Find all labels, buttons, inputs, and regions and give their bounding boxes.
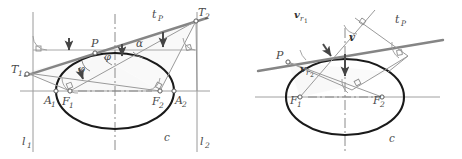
label-a1-sub: 1 xyxy=(51,100,56,109)
right-diagram: P t P F 1 F 2 c v r 1 v r 2 v xyxy=(255,9,443,152)
label-a2-sub: 2 xyxy=(181,100,187,109)
ellipse-figures-svg: P t P T 2 T 1 A 1 F 1 F 2 A 2 l 1 l 2 c … xyxy=(0,0,462,159)
left-shaded-regions xyxy=(27,21,196,91)
arrow-v-r1 xyxy=(323,44,331,56)
point-f1-marker xyxy=(68,89,72,93)
point-t2-marker xyxy=(194,19,198,23)
point-p-marker xyxy=(93,51,97,55)
label-l2: l xyxy=(200,135,204,148)
label-tangent-tp-right: t xyxy=(395,13,400,26)
label-f2-sub-right: 2 xyxy=(379,100,385,109)
label-vector-vr1-sub2: 1 xyxy=(304,17,308,24)
point-f1-marker-right xyxy=(298,95,302,99)
point-a2-marker xyxy=(172,89,176,93)
label-vector-v: v xyxy=(349,31,356,43)
label-f1-sub-right: 1 xyxy=(297,100,302,109)
label-vector-vr2-sub2: 2 xyxy=(310,71,314,78)
label-angle-phi-left: φ xyxy=(78,63,85,74)
tangent-line-tp-right xyxy=(258,40,443,71)
label-l1: l xyxy=(22,135,26,148)
point-t1-marker xyxy=(25,72,29,76)
label-f2-sub: 2 xyxy=(158,101,164,110)
label-l1-sub: 1 xyxy=(27,141,32,150)
figure-container: P t P T 2 T 1 A 1 F 1 F 2 A 2 l 1 l 2 c … xyxy=(0,0,462,159)
label-angle-phi-right: φ xyxy=(104,51,111,62)
label-f1-sub: 1 xyxy=(69,101,74,110)
label-tangent-tp-left-sub: P xyxy=(157,14,164,23)
label-p-right: P xyxy=(275,49,284,62)
label-tangent-tp-right-sub: P xyxy=(400,19,407,28)
label-p-left: P xyxy=(90,37,99,50)
label-tangent-tp-left: t xyxy=(152,8,157,21)
label-t1-sub: 1 xyxy=(18,69,23,78)
label-t2-sub: 2 xyxy=(204,12,210,21)
label-curve-c-right: c xyxy=(389,132,395,144)
point-p-marker-right xyxy=(286,60,290,64)
label-angle-alpha: α xyxy=(136,37,143,49)
label-curve-c-left: c xyxy=(164,131,170,143)
point-f2-marker xyxy=(158,89,162,93)
point-a1-marker xyxy=(54,89,58,93)
left-diagram: P t P T 2 T 1 A 1 F 1 F 2 A 2 l 1 l 2 c … xyxy=(11,6,210,152)
label-l2-sub: 2 xyxy=(204,141,210,150)
